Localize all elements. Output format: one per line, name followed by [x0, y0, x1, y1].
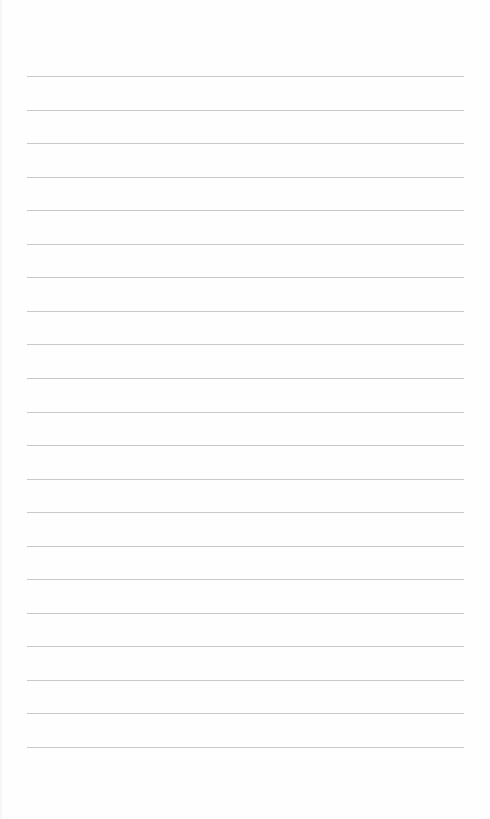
ruled-line [27, 445, 464, 446]
ruled-line [27, 177, 464, 178]
ruled-line [27, 579, 464, 580]
ruled-line [27, 747, 464, 748]
ruled-line [27, 378, 464, 379]
ruled-line [27, 479, 464, 480]
page-left-edge [0, 0, 2, 819]
ruled-line [27, 244, 464, 245]
ruled-line [27, 546, 464, 547]
ruled-line [27, 277, 464, 278]
ruled-line [27, 512, 464, 513]
ruled-line [27, 412, 464, 413]
ruled-line [27, 143, 464, 144]
ruled-line [27, 210, 464, 211]
ruled-line [27, 680, 464, 681]
ruled-line [27, 76, 464, 77]
ruled-line [27, 110, 464, 111]
ruled-line [27, 311, 464, 312]
ruled-line [27, 344, 464, 345]
ruled-line [27, 646, 464, 647]
ruled-line [27, 713, 464, 714]
lined-paper-page [0, 0, 490, 819]
ruled-line [27, 613, 464, 614]
